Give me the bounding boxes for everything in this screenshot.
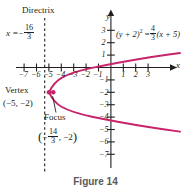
x-axis-label: x	[176, 61, 180, 70]
x-tick-label-2: 2	[134, 71, 138, 79]
y-tick-label-2: 2	[102, 39, 106, 47]
figure-caption: Figure 14	[0, 176, 191, 187]
y-axis-label: y	[106, 12, 110, 21]
focus-point-marker	[51, 90, 56, 95]
vertex-label: Vertex	[5, 86, 29, 95]
focus-coords-rest: , −2	[59, 132, 73, 142]
equation-lhs: (y + 2)	[116, 29, 140, 39]
y-tick-label-1: 1	[102, 51, 106, 59]
parabola-equation-label: (y + 2)2 =43(x + 5)	[116, 25, 180, 42]
focus-label: Focus	[44, 113, 66, 122]
figure-14-graph: −7 −6 −5 −4 −3 −2 −1 1 2 3 3 2 1 −1 −2 −…	[0, 0, 191, 195]
y-tick-label--7: −7	[99, 151, 108, 159]
focus-coordinates-label: (−143, −2)	[38, 128, 77, 146]
equation-fraction: 43	[150, 25, 156, 42]
focus-fraction-denominator: 3	[48, 137, 58, 145]
y-tick-label--1: −1	[99, 76, 108, 84]
vertex-point-marker	[47, 90, 52, 95]
equation-fraction-denominator: 3	[150, 34, 156, 42]
vertex-coordinates-label: (−5, −2)	[3, 99, 33, 108]
directrix-title-label: Directrix	[22, 6, 54, 15]
x-tick-label-3: 3	[146, 71, 150, 79]
directrix-eq-minus: −	[18, 28, 23, 38]
y-tick-label--4: −4	[99, 113, 108, 121]
directrix-fraction-denominator: 3	[24, 33, 34, 41]
equation-equals: =	[145, 29, 150, 39]
focus-coords-close-paren: )	[73, 129, 77, 144]
x-tick-label-1: 1	[121, 71, 125, 79]
y-tick-label--6: −6	[99, 138, 108, 146]
focus-leader-line	[53, 96, 56, 112]
x-tick-label--5: −5	[43, 71, 52, 79]
equation-exponent: 2	[140, 28, 143, 34]
x-tick-label--4: −4	[56, 71, 65, 79]
x-tick-label--3: −3	[68, 71, 77, 79]
x-tick-label--2: −2	[81, 71, 90, 79]
y-tick-label--5: −5	[99, 126, 108, 134]
y-tick-label--3: −3	[99, 101, 108, 109]
equation-rhs: (x + 5)	[156, 29, 180, 39]
x-tick-label--7: −7	[19, 71, 28, 79]
focus-coords-minus: −	[42, 132, 47, 142]
y-tick-label-3: 3	[102, 27, 106, 35]
y-tick-label--2: −2	[99, 89, 108, 97]
directrix-eq-lhs: x =	[6, 28, 18, 38]
focus-fraction: 143	[48, 128, 58, 146]
directrix-fraction: 163	[24, 24, 34, 42]
x-tick-label--6: −6	[31, 71, 40, 79]
directrix-equation: x =−163	[6, 24, 35, 42]
